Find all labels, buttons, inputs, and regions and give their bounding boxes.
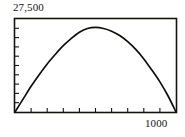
x-axis-ticks (31, 108, 160, 112)
plot-area (0, 0, 185, 137)
data-series-curve (15, 27, 176, 112)
y-axis-ticks (15, 28, 19, 102)
chart-figure: 27,500 1000 (0, 0, 185, 137)
plot-frame (15, 19, 177, 113)
